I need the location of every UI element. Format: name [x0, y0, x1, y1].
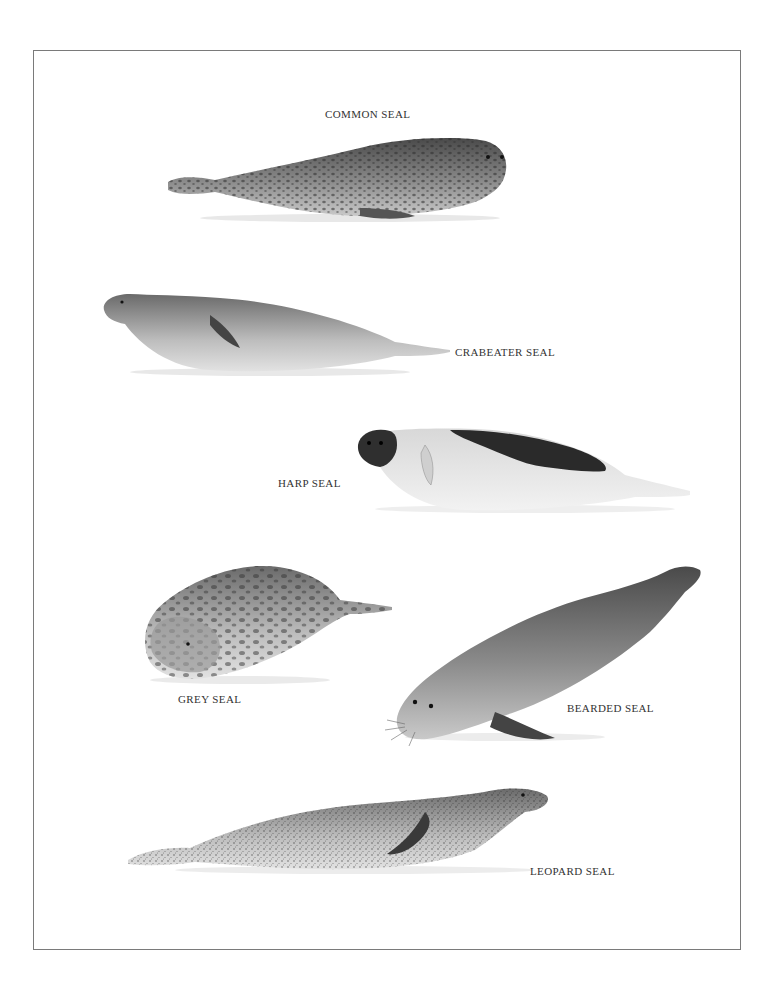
common-seal-illustration: [160, 130, 520, 225]
leopard-seal-illustration: [125, 782, 555, 877]
bearded-seal-label: BEARDED SEAL: [567, 702, 654, 714]
harp-seal-label: HARP SEAL: [278, 477, 341, 489]
crabeater-seal-label: CRABEATER SEAL: [455, 346, 555, 358]
leopard-seal-label: LEOPARD SEAL: [530, 865, 615, 877]
grey-seal-illustration: [140, 562, 400, 687]
common-seal-label: COMMON SEAL: [325, 108, 410, 120]
crabeater-seal-illustration: [100, 290, 455, 380]
harp-seal-illustration: [355, 425, 695, 515]
bearded-seal-illustration: [385, 562, 705, 747]
grey-seal-label: GREY SEAL: [178, 693, 241, 705]
